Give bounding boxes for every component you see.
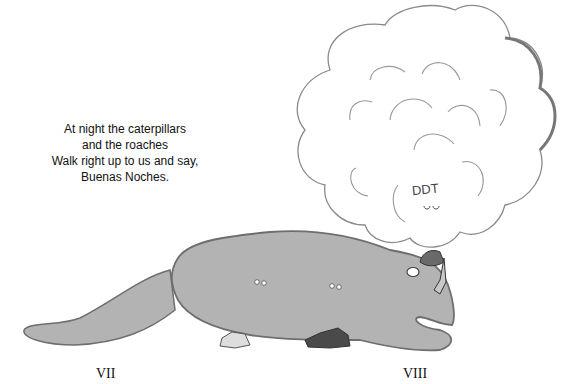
spot-icon	[262, 281, 267, 286]
spot-icon	[330, 284, 335, 289]
creature-body	[172, 231, 454, 350]
page-label-right: VIII	[403, 366, 427, 382]
cloud-text: DDT	[411, 181, 439, 199]
person-legs	[220, 332, 250, 348]
spot-icon	[255, 280, 260, 285]
spot-icon	[337, 285, 342, 290]
creature-tail	[24, 270, 175, 345]
illustration: DDT	[0, 0, 568, 384]
page-label-left: VII	[96, 366, 115, 382]
person-head	[420, 250, 444, 265]
eye-icon	[407, 268, 419, 277]
